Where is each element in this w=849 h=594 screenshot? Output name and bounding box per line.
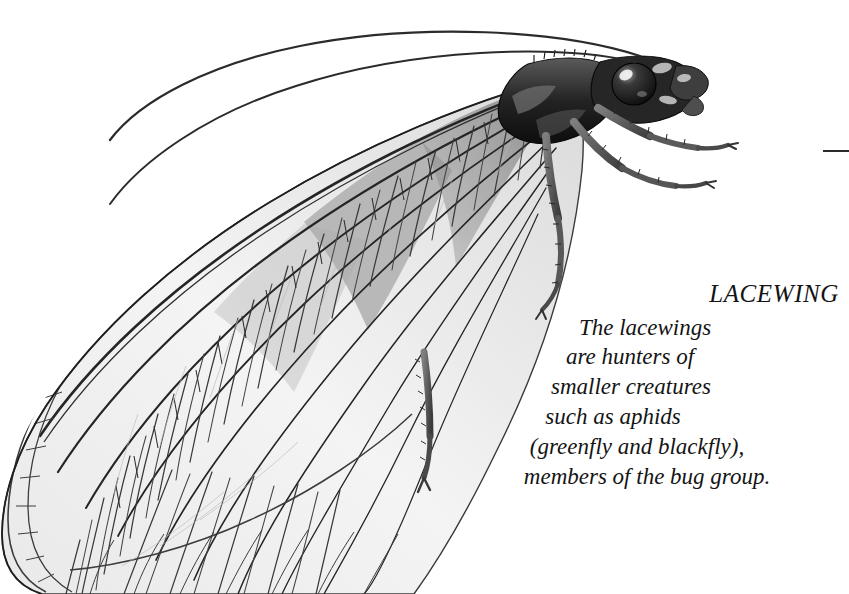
caption-title: LACEWING — [455, 278, 845, 311]
caption-line-5: (greenfly and blackfly), — [455, 432, 845, 462]
edge-rule-mark — [823, 150, 849, 152]
caption-block: LACEWING The lacewings are hunters of sm… — [455, 278, 845, 492]
caption-line-6: members of the bug group. — [455, 462, 845, 492]
caption-line-1: The lacewings — [455, 313, 845, 343]
illustration-page: LACEWING The lacewings are hunters of sm… — [0, 0, 849, 594]
caption-line-3: smaller creatures — [455, 372, 845, 402]
caption-line-2: are hunters of — [455, 342, 845, 372]
caption-line-4: such as aphids — [455, 402, 845, 432]
compound-eye — [612, 63, 656, 105]
